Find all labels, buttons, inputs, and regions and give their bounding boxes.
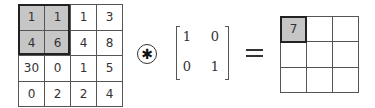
input-cell: 1: [44, 4, 71, 31]
output-cell: [280, 41, 307, 67]
output-matrix: 7: [281, 17, 359, 93]
input-cell: 2: [44, 81, 71, 108]
input-cell: 2: [70, 81, 97, 108]
output-cell: [332, 67, 359, 93]
output-cell: [280, 67, 307, 93]
input-cell: 0: [44, 55, 71, 82]
input-cell: 4: [18, 30, 45, 57]
kernel-value: 1: [181, 29, 193, 44]
input-cell: 1: [18, 4, 45, 31]
equals-sign: [246, 47, 263, 58]
left-bracket: [176, 26, 180, 80]
input-cell: 0: [18, 81, 45, 108]
output-cell: [332, 16, 359, 42]
kernel-matrix: 1 0 0 1: [176, 26, 229, 80]
output-cell: [306, 67, 333, 93]
output-cell: [332, 41, 359, 67]
input-cell: 8: [96, 30, 123, 57]
input-cell: 4: [96, 81, 123, 108]
input-cell: 4: [70, 30, 97, 57]
input-matrix: 1 1 1 3 4 6 4 8 30 0 1 5 0 2 2 4: [19, 5, 123, 107]
input-cell: 6: [44, 30, 71, 57]
right-bracket: [225, 26, 229, 80]
kernel-value: 1: [209, 59, 221, 74]
kernel-value: 0: [209, 29, 221, 44]
convolution-operator-icon: ✱: [137, 44, 157, 64]
output-cell: [306, 16, 333, 42]
kernel-value: 0: [181, 59, 193, 74]
input-cell: 30: [18, 55, 45, 82]
input-cell: 1: [70, 4, 97, 31]
output-cell: [306, 41, 333, 67]
input-cell: 5: [96, 55, 123, 82]
input-cell: 3: [96, 4, 123, 31]
output-cell: 7: [280, 16, 307, 42]
input-cell: 1: [70, 55, 97, 82]
